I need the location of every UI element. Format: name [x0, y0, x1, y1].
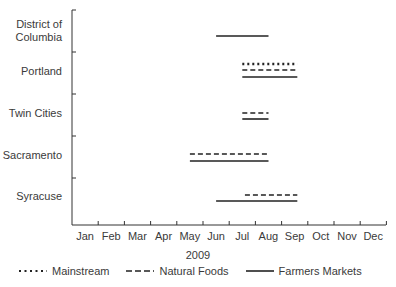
y-label-sacramento: Sacramento [3, 149, 62, 162]
x-tick-label: Sep [282, 230, 308, 242]
x-tick-label: Jan [72, 230, 98, 242]
legend-item-mainstream: Mainstream [18, 265, 109, 277]
x-tick-label: Apr [151, 230, 177, 242]
legend-item-farmers-markets: Farmers Markets [245, 265, 362, 277]
dotted-line-icon [18, 268, 48, 274]
range-lines [190, 36, 297, 201]
legend-item-natural-foods: Natural Foods [125, 265, 228, 277]
y-label-dc: District ofColumbia [16, 18, 62, 44]
x-ticks [98, 221, 386, 225]
x-tick-label: Nov [334, 230, 360, 242]
x-axis-title: 2009 [0, 249, 396, 261]
y-label-portland: Portland [21, 65, 62, 78]
x-tick-label: May [177, 230, 203, 242]
x-tick-label: Feb [98, 230, 124, 242]
x-tick-label: Aug [255, 230, 281, 242]
x-tick-label: Oct [308, 230, 334, 242]
x-tick-label: Jul [229, 230, 255, 242]
x-tick-label: Dec [360, 230, 386, 242]
x-tick-label: Mar [124, 230, 150, 242]
y-ticks [72, 10, 76, 178]
dashed-line-icon [125, 268, 155, 274]
x-tick-label: Jun [203, 230, 229, 242]
y-label-twin-cities: Twin Cities [9, 107, 62, 120]
solid-line-icon [245, 268, 275, 274]
legend: Mainstream Natural Foods Farmers Markets [18, 265, 378, 277]
y-label-syracuse: Syracuse [16, 190, 62, 203]
